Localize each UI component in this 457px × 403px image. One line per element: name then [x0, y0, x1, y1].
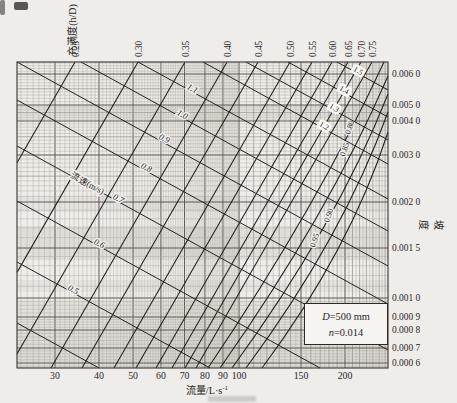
right-axis-tick-label: 0.000 6	[392, 358, 420, 368]
right-axis-tick-label: 0.003 0	[392, 150, 420, 160]
right-axis-tick-label: 0.005 0	[392, 100, 420, 110]
scanned-chart-page: 充满度(h/D) 坡度 0.250.300.350.400.450.500.55…	[0, 0, 457, 403]
bottom-axis-label: 流量/L·s	[186, 385, 222, 396]
top-axis-tick-label: 0.30	[134, 40, 144, 57]
bottom-axis-tick-label: 40	[94, 370, 104, 381]
scan-band	[17, 226, 388, 260]
top-axis-tick-label: 0.40	[223, 40, 233, 57]
legend-line-diameter: D=500 mm	[305, 309, 387, 325]
right-axis-tick-label: 0.000 8	[392, 325, 420, 335]
bottom-axis-tick-label: 70	[180, 370, 190, 381]
pipe-parameters-legend: D=500 mm n=0.014	[304, 303, 388, 345]
legend-line-roughness: n=0.014	[305, 325, 387, 341]
right-axis-tick-label: 0.001 0	[392, 293, 420, 303]
bottom-axis-tick-label: 150	[294, 370, 309, 381]
bottom-axis-label-exponent: -1	[222, 384, 228, 392]
top-axis-tick-label: 0.50	[286, 40, 296, 57]
bottom-axis-tick-label: 200	[338, 370, 353, 381]
top-axis-tick-label: 0.35	[181, 40, 191, 57]
top-axis-tick-label: 0.65	[344, 40, 354, 57]
top-axis-tick-label: 0.60	[328, 40, 338, 57]
right-axis-tick-label: 0.006 0	[392, 69, 420, 79]
top-axis-tick-label: 0.75	[368, 40, 378, 57]
cropped-caption-fragment	[208, 396, 256, 402]
right-axis-tick-label: 0.001 5	[392, 243, 420, 253]
velocity-line-label: 1.1	[185, 81, 199, 95]
right-axis-tick-label: 0.000 7	[392, 343, 420, 353]
top-axis-tick-label: 0.70	[357, 40, 367, 57]
velocity-series-title: 流速(m/s)	[69, 169, 107, 196]
hydraulic-chart-canvas: 0.250.300.350.400.450.500.550.600.650.70…	[0, 0, 457, 403]
bottom-axis-tick-label: 50	[128, 370, 138, 381]
bottom-axis-title: 流量/L·s-1	[142, 382, 272, 397]
right-axis-tick-label: 0.002 0	[392, 197, 420, 207]
right-axis-tick-label: 0.000 9	[392, 312, 420, 322]
bottom-axis-tick-label: 100	[232, 370, 247, 381]
velocity-line-label: 0.8	[139, 160, 154, 174]
bottom-axis-tick-label: 30	[50, 370, 60, 381]
top-axis-tick-label: 0.25	[71, 40, 81, 57]
bottom-axis-tick-label: 80	[200, 370, 210, 381]
top-axis-tick-label: 0.55	[308, 40, 318, 57]
right-axis-tick-label: 0.004 0	[392, 116, 420, 126]
top-axis-tick-label: 0.45	[254, 40, 264, 57]
bottom-axis-tick-label: 90	[218, 370, 228, 381]
bottom-axis-tick-label: 60	[156, 370, 166, 381]
